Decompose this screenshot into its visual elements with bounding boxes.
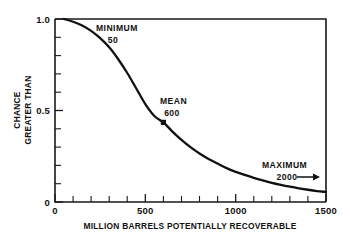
y-axis-title-line2: GREATER THAN xyxy=(23,76,33,145)
x-tick-label-0: 0 xyxy=(52,205,57,216)
chart-svg: 1.0 0.5 0 0 500 1000 1500 MILLION BARREL… xyxy=(0,0,343,240)
x-tick-label-1000: 1000 xyxy=(225,205,247,216)
y-axis-title-line1: CHANCE xyxy=(12,91,22,128)
chart-background xyxy=(0,0,343,240)
chart-figure: 1.0 0.5 0 0 500 1000 1500 MILLION BARREL… xyxy=(0,0,343,240)
minimum-value: 50 xyxy=(108,35,118,45)
y-tick-label-1: 1.0 xyxy=(36,14,50,25)
y-tick-label-0: 0 xyxy=(45,197,50,208)
mean-data-marker xyxy=(161,120,166,125)
maximum-label: MAXIMUM xyxy=(262,160,307,170)
x-tick-label-1500: 1500 xyxy=(315,205,337,216)
minimum-label: MINIMUM xyxy=(96,23,138,33)
x-axis-title: MILLION BARRELS POTENTIALLY RECOVERABLE xyxy=(83,221,296,231)
maximum-value: 2000 xyxy=(277,172,298,182)
mean-label: MEAN xyxy=(160,96,187,106)
mean-value: 600 xyxy=(164,108,180,118)
x-tick-label-500: 500 xyxy=(137,205,153,216)
y-tick-label-0-5: 0.5 xyxy=(36,105,50,116)
